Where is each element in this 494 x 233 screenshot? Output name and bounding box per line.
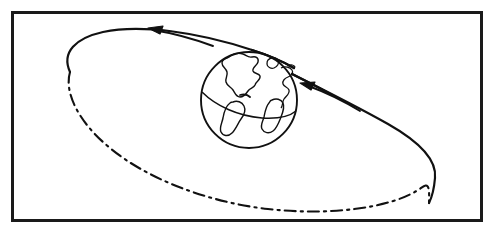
earth-orbit-diagram: Earth with inclined elliptical orbit Lin…	[0, 0, 494, 233]
globe-outline	[201, 52, 297, 148]
earth-globe	[201, 52, 297, 148]
figure-container: Earth with inclined elliptical orbit Lin…	[0, 0, 494, 233]
